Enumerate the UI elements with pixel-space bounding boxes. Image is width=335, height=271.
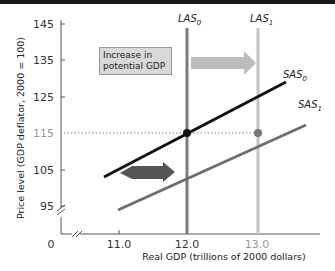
annotation-line-1: Increase in: [103, 50, 168, 61]
equilibrium-point-1: [254, 129, 262, 137]
y-tick-label: 105: [33, 164, 54, 177]
y-ticks: [61, 24, 65, 206]
x-tick-label: 12.0: [175, 238, 200, 251]
y-tick-label: 115: [33, 127, 54, 140]
las-shift-arrow-icon: [191, 51, 256, 75]
sas1-label: SAS1: [298, 99, 322, 113]
las1-label: LAS1: [250, 13, 273, 27]
las0-label: LAS0: [178, 13, 202, 27]
y-tick-label: 125: [33, 91, 54, 104]
x-tick-label: 11.0: [107, 238, 132, 251]
annotation-line-2: potential GDP: [103, 61, 168, 72]
y-tick-label: 95: [40, 200, 54, 213]
y-tick-label: 135: [33, 54, 54, 67]
chart: 145 135 125 115 105 95 11.0 12.0 13.0 0 …: [0, 0, 335, 271]
sas0-label: SAS0: [283, 69, 308, 83]
y-tick-label: 145: [33, 18, 54, 31]
x-axis-title: Real GDP (trillions of 2000 dollars): [142, 251, 306, 262]
x-tick-label: 13.0: [245, 238, 270, 251]
increase-potential-gdp-annotation: Increase in potential GDP: [99, 47, 172, 75]
origin-label: 0: [48, 238, 55, 251]
equilibrium-point-0: [183, 129, 191, 137]
y-axis-title: Price level (GDP deflator, 2000 = 100): [15, 37, 26, 219]
